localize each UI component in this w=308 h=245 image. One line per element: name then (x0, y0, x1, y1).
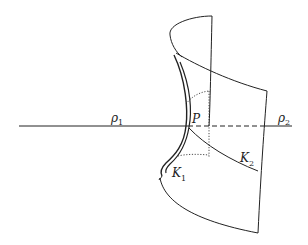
svg-text:1: 1 (118, 118, 123, 127)
svg-text:1: 1 (181, 174, 186, 183)
principal-curve-K1-outer (161, 55, 186, 176)
svg-text:2: 2 (285, 118, 290, 127)
surface-top-edge (176, 53, 267, 91)
saddle-surface-diagram: ρ 1 ρ 2 P K 2 K 1 (0, 0, 308, 245)
label-K2: K 2 (239, 151, 254, 168)
surface-top-curl (170, 16, 212, 57)
surface-right-edge (258, 91, 267, 233)
label-point-P: P (191, 112, 201, 126)
svg-text:ρ: ρ (277, 111, 285, 125)
svg-text:P: P (191, 112, 201, 126)
label-rho1: ρ 1 (110, 111, 123, 127)
svg-text:2: 2 (249, 159, 254, 168)
hidden-arc-lower (178, 154, 209, 156)
diagram-canvas: ρ 1 ρ 2 P K 2 K 1 (0, 0, 308, 245)
surface-bottom-edge (160, 178, 258, 233)
label-rho2: ρ 2 (277, 111, 290, 127)
svg-text:ρ: ρ (110, 111, 118, 125)
label-K1: K 1 (171, 166, 186, 183)
